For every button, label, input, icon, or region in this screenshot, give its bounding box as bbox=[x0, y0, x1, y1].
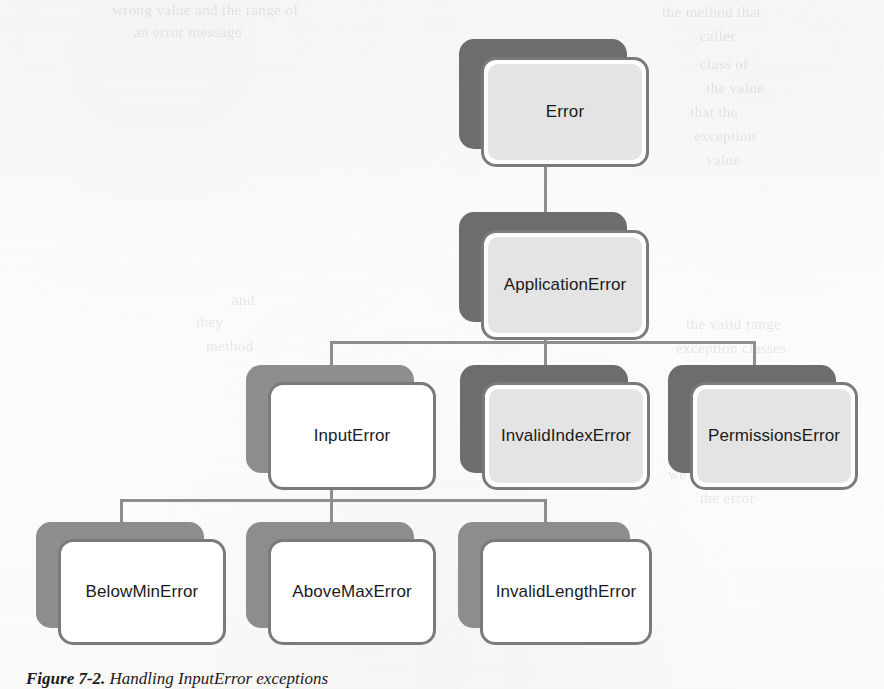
node-inner-fill: PermissionsError bbox=[697, 389, 851, 483]
node-permissionserror[interactable]: PermissionsError bbox=[668, 365, 836, 473]
node-inner-fill: AboveMaxError bbox=[275, 546, 429, 638]
node-label: InputError bbox=[314, 426, 391, 446]
figure-caption-number: Figure 7-2. bbox=[26, 669, 105, 688]
node-face: InvalidLengthError bbox=[480, 539, 652, 645]
node-label: PermissionsError bbox=[708, 426, 840, 446]
figure-caption: Figure 7-2. Handling InputError exceptio… bbox=[26, 669, 328, 689]
node-label: InvalidIndexError bbox=[501, 426, 631, 446]
node-face: InvalidIndexError bbox=[482, 382, 650, 490]
node-abovemaxerror[interactable]: AboveMaxError bbox=[246, 522, 414, 628]
figure-caption-text: Handling InputError exceptions bbox=[110, 669, 328, 688]
connector-row3-bus bbox=[330, 341, 756, 344]
node-label: AboveMaxError bbox=[292, 582, 411, 602]
node-face: ApplicationError bbox=[481, 230, 649, 340]
node-belowminerror[interactable]: BelowMinError bbox=[36, 522, 204, 628]
node-face: PermissionsError bbox=[690, 382, 858, 490]
node-inner-fill: InvalidLengthError bbox=[487, 546, 645, 638]
node-face: InputError bbox=[268, 382, 436, 490]
node-inner-fill: Error bbox=[488, 64, 642, 160]
node-inputerror[interactable]: InputError bbox=[246, 365, 414, 473]
node-applicationerror[interactable]: ApplicationError bbox=[459, 212, 627, 322]
node-label: ApplicationError bbox=[504, 275, 627, 295]
node-inner-fill: BelowMinError bbox=[65, 546, 219, 638]
node-invalidindexerror[interactable]: InvalidIndexError bbox=[460, 365, 628, 473]
node-face: Error bbox=[481, 57, 649, 167]
node-inner-fill: InputError bbox=[275, 389, 429, 483]
node-inner-fill: InvalidIndexError bbox=[489, 389, 643, 483]
node-face: BelowMinError bbox=[58, 539, 226, 645]
node-invalidlengtherror[interactable]: InvalidLengthError bbox=[458, 522, 630, 628]
node-label: Error bbox=[546, 102, 584, 122]
node-inner-fill: ApplicationError bbox=[488, 237, 642, 333]
node-label: BelowMinError bbox=[86, 582, 199, 602]
error-class-hierarchy-diagram: Error ApplicationError InputError bbox=[0, 0, 884, 689]
scanned-book-page: wrong value and the range of an error me… bbox=[0, 0, 884, 689]
node-face: AboveMaxError bbox=[268, 539, 436, 645]
node-error[interactable]: Error bbox=[459, 39, 627, 149]
node-label: InvalidLengthError bbox=[496, 582, 637, 602]
